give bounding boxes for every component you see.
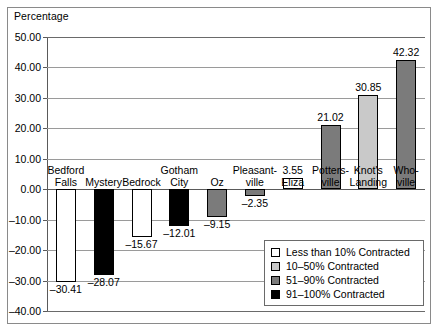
y-axis-tick-label: 40.00: [15, 61, 41, 73]
legend-swatch: [271, 248, 280, 257]
bar: [132, 189, 152, 237]
bar-value-label: 3.55: [282, 164, 302, 176]
bar-value-label: –28.07: [88, 276, 120, 288]
category-label-line: Landing: [350, 177, 387, 189]
y-axis-tick-label: 20.00: [15, 122, 41, 134]
y-axis-title: Percentage: [14, 10, 69, 22]
bar: [56, 189, 76, 282]
bar-value-label: 21.02: [317, 111, 343, 123]
category-label-line: ville: [233, 177, 277, 189]
y-axis-tick-label: 30.00: [15, 92, 41, 104]
y-axis-tick: [43, 67, 47, 68]
bar: [207, 189, 227, 217]
category-label: Potters-ville: [312, 165, 349, 188]
y-axis-tick: [43, 281, 47, 282]
category-label: Eliza: [281, 177, 304, 189]
legend-swatch: [271, 290, 280, 299]
y-axis-tick: [43, 250, 47, 251]
legend-item: 51–90% Contracted: [271, 273, 418, 287]
category-label-line: ville: [312, 177, 349, 189]
category-label: Oz: [210, 177, 223, 189]
bar-value-label: –9.15: [204, 218, 230, 230]
bar-value-label: –2.35: [242, 197, 268, 209]
legend-swatch: [271, 276, 280, 285]
y-axis-tick: [43, 159, 47, 160]
y-axis-tick: [43, 128, 47, 129]
bar-value-label: 42.32: [393, 46, 419, 58]
category-label-line: City: [161, 177, 198, 189]
bar-value-label: –12.01: [163, 227, 195, 239]
category-label: Mystery: [85, 177, 122, 189]
y-axis-tick: [43, 37, 47, 38]
legend-label: Less than 10% Contracted: [286, 246, 410, 258]
gridline: [47, 67, 425, 68]
legend-item: 10–50% Contracted: [271, 259, 418, 273]
bar-value-label: –30.41: [50, 283, 82, 295]
legend-label: 51–90% Contracted: [286, 274, 379, 286]
bar-value-label: 30.85: [355, 81, 381, 93]
category-label-line: ville: [394, 177, 419, 189]
category-label-line: Pleasant-: [233, 165, 277, 177]
y-axis-tick-label: 0.00: [21, 183, 41, 195]
bar-value-label: –15.67: [125, 238, 157, 250]
y-axis-tick-label: –30.00: [9, 275, 41, 287]
y-axis-tick-label: –40.00: [9, 305, 41, 317]
category-label: Bedrock: [122, 177, 161, 189]
legend-item: 91–100% Contracted: [271, 287, 418, 301]
category-label: Pleasant-ville: [233, 165, 277, 188]
category-label-line: Gotham: [161, 165, 198, 177]
category-label-line: Bedrock: [122, 177, 161, 189]
category-label-line: Bedford: [48, 165, 85, 177]
gridline: [47, 37, 425, 38]
legend-label: 10–50% Contracted: [286, 260, 379, 272]
category-label-line: Oz: [210, 177, 223, 189]
category-label-line: Falls: [48, 177, 85, 189]
bar: [169, 189, 189, 226]
legend-swatch: [271, 262, 280, 271]
y-axis-tick: [43, 98, 47, 99]
category-label-line: Who-: [394, 165, 419, 177]
chart-legend: Less than 10% Contracted10–50% Contracte…: [264, 240, 424, 306]
y-axis-tick-label: –20.00: [9, 244, 41, 256]
y-axis-tick: [43, 189, 47, 190]
bar: [94, 189, 114, 274]
y-axis-tick-label: –10.00: [9, 214, 41, 226]
category-label: Knot'sLanding: [350, 165, 387, 188]
legend-item: Less than 10% Contracted: [271, 245, 418, 259]
category-label: Who-ville: [394, 165, 419, 188]
category-label: BedfordFalls: [48, 165, 85, 188]
y-axis-tick: [43, 311, 47, 312]
y-axis-tick-label: 50.00: [15, 31, 41, 43]
legend-label: 91–100% Contracted: [286, 288, 385, 300]
bar: [245, 189, 265, 196]
y-axis-tick: [43, 220, 47, 221]
category-label: GothamCity: [161, 165, 198, 188]
category-label-line: Mystery: [85, 177, 122, 189]
y-axis-tick-label: 10.00: [15, 153, 41, 165]
category-label-line: Eliza: [281, 177, 304, 189]
gridline: [47, 311, 425, 312]
category-label-line: Knot's: [350, 165, 387, 177]
chart-figure: Percentage 50.0040.0030.0020.0010.000.00…: [0, 0, 439, 332]
category-label-line: Potters-: [312, 165, 349, 177]
